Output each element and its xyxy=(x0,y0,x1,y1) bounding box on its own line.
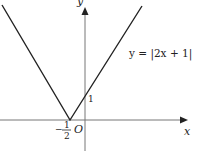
graph-line xyxy=(2,5,142,120)
x-axis-arrow-icon xyxy=(180,117,188,124)
neg-half-denominator: 2 xyxy=(64,131,70,141)
neg-half-numerator: 1 xyxy=(64,120,70,130)
neg-half-sign: − xyxy=(55,124,63,134)
y-axis-arrow-icon xyxy=(82,7,89,15)
origin-label: O xyxy=(74,123,83,136)
x-axis-label: x xyxy=(184,125,191,138)
function-graph: y x O 1 − 1 2 y = |2x + 1| xyxy=(0,0,199,151)
equation-label: y = |2x + 1| xyxy=(128,47,192,61)
y-intercept-label: 1 xyxy=(88,94,94,104)
y-axis-label: y xyxy=(76,0,84,8)
